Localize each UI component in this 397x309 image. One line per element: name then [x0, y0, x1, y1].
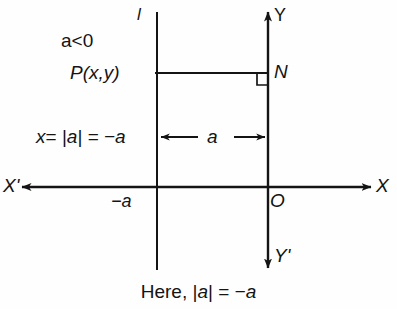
x-value-abs-close: | — [77, 126, 82, 147]
coordinate-geometry-figure: l Y a<0 P(x,y) N x= |a| = −a a X' X −a O… — [0, 0, 397, 309]
label-condition-a-less-than-zero: a<0 — [61, 31, 93, 50]
label-point-p: P(x,y) — [70, 63, 120, 82]
label-x-value: x= |a| = −a — [36, 127, 126, 146]
caption-abs-close: | — [208, 281, 213, 302]
label-x-axis-negative: X' — [3, 176, 19, 195]
label-point-n: N — [274, 62, 288, 81]
right-angle-marker — [257, 73, 268, 85]
label-line-l: l — [137, 6, 141, 23]
label-y-axis-negative: Y' — [274, 246, 290, 265]
caption-abs-var: a — [197, 281, 208, 302]
caption-lead: Here, — [141, 281, 187, 302]
caption-equals: = — [218, 281, 229, 302]
label-origin: O — [270, 191, 285, 210]
x-value-equals-1: = — [46, 126, 57, 147]
label-x-intercept-negative-a: −a — [111, 192, 132, 210]
x-value-var: x — [36, 126, 46, 147]
x-value-result: −a — [104, 126, 126, 147]
x-value-abs-var: a — [67, 126, 78, 147]
label-distance-a: a — [207, 127, 218, 146]
figure-caption: Here, |a| = −a — [0, 281, 397, 303]
x-value-equals-2: = — [88, 126, 99, 147]
caption-result: −a — [235, 281, 257, 302]
label-y-axis-positive: Y — [274, 6, 286, 24]
label-x-axis-positive: X — [376, 176, 389, 195]
figure-drawing — [0, 0, 397, 309]
